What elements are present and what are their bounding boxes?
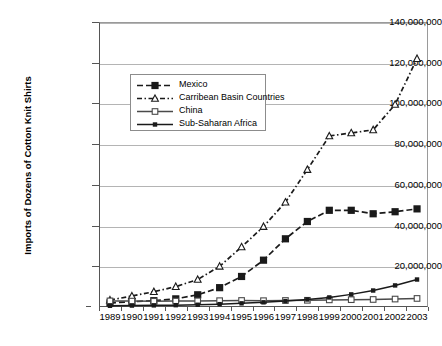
y-tick-mark <box>92 226 99 227</box>
y-tick-mark <box>92 103 99 104</box>
y-tick-mark <box>92 22 99 23</box>
legend-item-carribean-basin-countries[interactable]: Carribean Basin Countries <box>135 91 261 104</box>
y-tick-label: 140,000,000 <box>364 17 442 27</box>
legend-item-china[interactable]: China <box>135 104 261 117</box>
origin-tick <box>86 306 91 307</box>
y-tick-mark <box>92 266 99 267</box>
legend-label: Mexico <box>175 80 208 89</box>
legend-key-icon <box>135 117 175 130</box>
legend-key-icon <box>135 78 175 91</box>
legend-key-icon <box>135 104 175 117</box>
y-tick-label: 80,000,000 <box>364 139 442 149</box>
chart-container: Imports of Dozens of Cotton Knit Shirts … <box>0 0 442 346</box>
y-tick-label: 60,000,000 <box>364 180 442 190</box>
y-tick-label: 120,000,000 <box>364 58 442 68</box>
legend-label: China <box>175 106 203 115</box>
chart-legend: MexicoCarribean Basin CountriesChinaSub-… <box>130 74 266 131</box>
x-tick-label: 2003 <box>402 312 432 322</box>
y-tick-label: 20,000,000 <box>364 261 442 271</box>
y-tick-mark <box>92 63 99 64</box>
legend-key-icon <box>135 91 175 104</box>
legend-label: Sub-Saharan Africa <box>175 119 257 128</box>
y-tick-label: 40,000,000 <box>364 221 442 231</box>
y-tick-mark <box>92 185 99 186</box>
y-tick-label: 100,000,000 <box>364 98 442 108</box>
legend-item-sub-saharan-africa[interactable]: Sub-Saharan Africa <box>135 117 261 130</box>
legend-item-mexico[interactable]: Mexico <box>135 78 261 91</box>
y-axis-title: Imports of Dozens of Cotton Knit Shirts <box>22 46 33 286</box>
x-tick-mark <box>428 307 429 311</box>
legend-label: Carribean Basin Countries <box>175 93 285 102</box>
y-tick-mark <box>92 144 99 145</box>
